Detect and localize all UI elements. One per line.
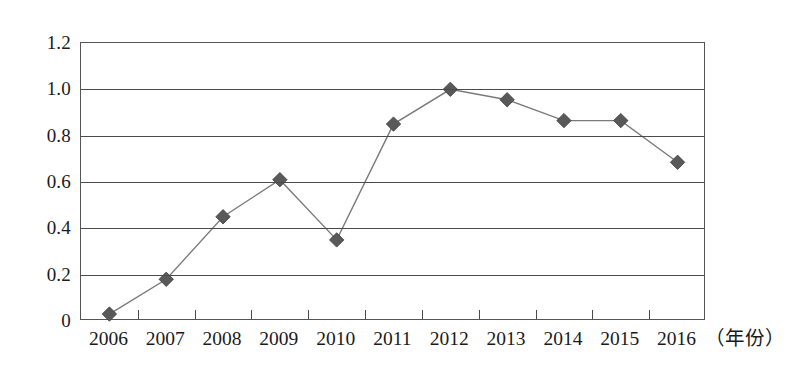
- x-tick-label: 2016: [648, 329, 705, 363]
- x-axis-tick: [422, 310, 423, 319]
- x-tick-label: 2011: [364, 329, 421, 363]
- data-point-marker: [557, 113, 571, 127]
- data-point-marker: [386, 117, 400, 131]
- x-axis-title: （年份）: [705, 329, 785, 349]
- x-axis-tick: [365, 310, 366, 319]
- data-point-marker: [670, 155, 684, 169]
- x-axis-tick: [308, 310, 309, 319]
- x-axis: 2006200720082009201020112012201320142015…: [80, 329, 705, 363]
- data-point-marker: [500, 93, 514, 107]
- x-axis-tick: [536, 310, 537, 319]
- y-tick-label: 0.4: [47, 218, 71, 237]
- x-tick-label: 2010: [307, 329, 364, 363]
- y-tick-label: 0.2: [47, 264, 71, 283]
- x-axis-tick: [649, 310, 650, 319]
- y-tick-label: 0: [61, 311, 71, 330]
- x-tick-label: 2013: [478, 329, 535, 363]
- gridline: [81, 182, 704, 183]
- series-markers: [102, 82, 685, 321]
- x-tick-label: 2015: [591, 329, 648, 363]
- y-tick-label: 0.6: [47, 172, 71, 191]
- x-tick-label: 2009: [250, 329, 307, 363]
- y-tick-label: 1.0: [47, 79, 71, 98]
- x-axis-tick: [479, 310, 480, 319]
- gridline: [81, 228, 704, 229]
- x-axis-tick: [195, 310, 196, 319]
- gridline: [81, 275, 704, 276]
- x-tick-label: 2008: [194, 329, 251, 363]
- x-tick-label: 2012: [421, 329, 478, 363]
- x-axis-tick: [138, 310, 139, 319]
- y-tick-label: 1.2: [47, 33, 71, 52]
- x-axis-tick: [592, 310, 593, 319]
- y-axis: 1.21.00.80.60.40.20: [0, 0, 71, 375]
- data-point-marker: [102, 307, 116, 321]
- gridline: [81, 89, 704, 90]
- plot-area: [80, 42, 705, 320]
- x-tick-label: 2006: [80, 329, 137, 363]
- x-tick-label: 2007: [137, 329, 194, 363]
- gridline: [81, 136, 704, 137]
- line-chart-figure: 1.21.00.80.60.40.20 20062007200820092010…: [0, 0, 806, 375]
- data-point-marker: [614, 113, 628, 127]
- y-tick-label: 0.8: [47, 125, 71, 144]
- x-axis-tick: [251, 310, 252, 319]
- x-tick-label: 2014: [535, 329, 592, 363]
